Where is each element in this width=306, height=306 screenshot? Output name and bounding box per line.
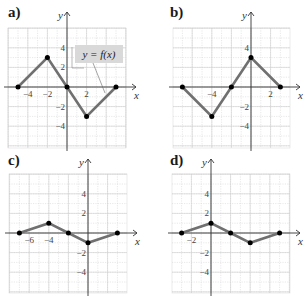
y-tick-label: −2 xyxy=(55,102,65,112)
annotation-text: y = f(x) xyxy=(81,48,115,61)
y-axis-label: y xyxy=(201,156,207,168)
data-point xyxy=(46,221,51,226)
x-tick-label: −6 xyxy=(24,235,34,245)
y-tick-label: −2 xyxy=(199,248,209,258)
data-point xyxy=(209,221,214,226)
x-tick-label: −4 xyxy=(207,89,217,99)
data-point xyxy=(86,240,91,245)
data-point xyxy=(179,231,184,236)
graph-d-label: d) xyxy=(170,152,183,169)
data-point xyxy=(45,55,50,60)
x-tick-label: 2 xyxy=(84,89,89,99)
graph-b-plot: xy−424−2−4 xyxy=(153,0,306,153)
x-axis-label: x xyxy=(134,235,140,247)
y-tick-label: 4 xyxy=(61,43,66,53)
x-axis-label: x xyxy=(297,89,303,101)
graph-panel-a: xy−4−2242−2−4y = f(x) a) xyxy=(0,0,153,153)
data-point xyxy=(248,240,253,245)
x-tick-label: −2 xyxy=(43,89,53,99)
x-axis-label: x xyxy=(297,235,303,247)
y-tick-label: −4 xyxy=(76,267,86,277)
data-point xyxy=(65,85,70,90)
graph-panel-c: xy−6−442−2−4 c) xyxy=(0,153,153,306)
y-tick-label: 4 xyxy=(205,189,210,199)
data-point xyxy=(17,231,22,236)
x-tick-label: 2 xyxy=(268,89,273,99)
data-point xyxy=(228,231,233,236)
graph-panel-b: xy−424−2−4 b) xyxy=(153,0,306,153)
y-tick-label: 4 xyxy=(245,43,250,53)
graph-c-plot: xy−6−442−2−4 xyxy=(0,153,153,306)
graph-d-plot: xy−242−2−4 xyxy=(153,153,306,306)
y-axis-label: y xyxy=(78,156,84,168)
data-point xyxy=(114,85,119,90)
graph-b-label: b) xyxy=(170,4,183,21)
data-point xyxy=(180,85,185,90)
y-axis-label: y xyxy=(241,9,247,21)
data-point xyxy=(84,114,89,119)
data-point xyxy=(229,85,234,90)
y-tick-label: −4 xyxy=(55,121,65,131)
y-tick-label: 2 xyxy=(61,62,66,72)
graph-panel-d: xy−242−2−4 d) xyxy=(153,153,306,306)
y-tick-label: −2 xyxy=(76,248,86,258)
y-axis-label: y xyxy=(57,9,63,21)
x-axis-label: x xyxy=(133,89,139,101)
graph-a-plot: xy−4−2242−2−4y = f(x) xyxy=(0,0,153,153)
graph-c-label: c) xyxy=(8,152,20,169)
data-point xyxy=(16,85,21,90)
data-point xyxy=(115,231,120,236)
data-point xyxy=(277,231,282,236)
x-tick-label: −2 xyxy=(187,235,197,245)
y-tick-label: −2 xyxy=(239,102,249,112)
y-tick-label: −4 xyxy=(199,267,209,277)
y-tick-label: 2 xyxy=(82,208,87,218)
y-tick-label: 2 xyxy=(205,208,210,218)
y-tick-label: −4 xyxy=(239,121,249,131)
graph-a-label: a) xyxy=(8,4,21,21)
y-tick-label: 4 xyxy=(82,189,87,199)
data-point xyxy=(278,85,283,90)
x-tick-label: −4 xyxy=(23,89,33,99)
data-point xyxy=(209,114,214,119)
data-point xyxy=(66,231,71,236)
data-point xyxy=(249,55,254,60)
x-tick-label: −4 xyxy=(44,235,54,245)
